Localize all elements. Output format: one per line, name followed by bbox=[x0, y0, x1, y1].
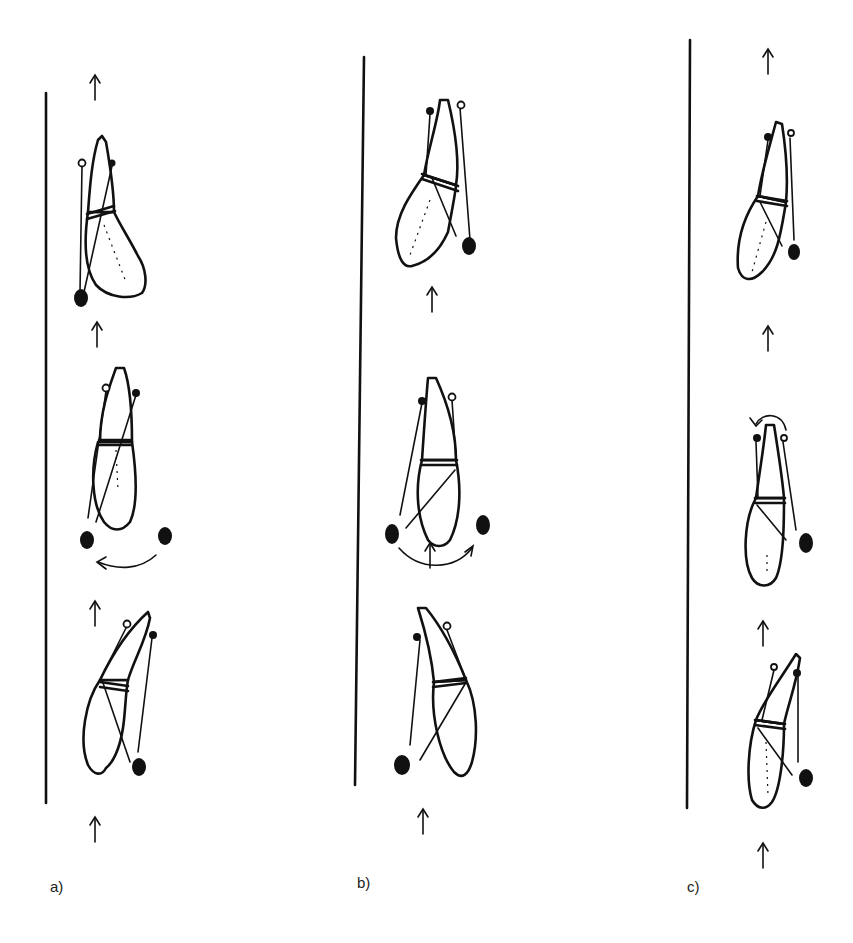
up-arrow-icon bbox=[92, 322, 102, 347]
ball-icon bbox=[462, 237, 476, 255]
horse-b-bottom bbox=[394, 608, 476, 776]
horse-a-top bbox=[74, 136, 145, 307]
horse-b-middle bbox=[385, 378, 490, 565]
up-arrow-icon bbox=[427, 287, 437, 312]
diagram-svg bbox=[0, 0, 853, 943]
up-arrow-icon bbox=[90, 817, 100, 842]
up-arrow-icon bbox=[758, 621, 768, 646]
horse-b-top bbox=[396, 100, 476, 266]
ball-icon bbox=[394, 755, 410, 775]
figure-canvas: a) b) c) bbox=[0, 0, 853, 943]
panel-b bbox=[355, 57, 490, 834]
up-arrow-icon bbox=[90, 75, 100, 100]
panel-c bbox=[687, 40, 813, 868]
up-arrow-icon bbox=[763, 49, 773, 74]
ball-icon bbox=[158, 527, 172, 545]
up-arrow-icon bbox=[90, 601, 100, 626]
track-wall-line-b bbox=[355, 57, 364, 785]
horse-c-top bbox=[738, 122, 800, 279]
panel-label-a: a) bbox=[50, 878, 63, 895]
ball-icon bbox=[385, 524, 399, 544]
ball-icon bbox=[799, 769, 813, 787]
horse-a-middle bbox=[80, 368, 172, 569]
horse-c-middle bbox=[746, 416, 813, 586]
ball-icon bbox=[74, 289, 88, 307]
up-arrow-icon bbox=[763, 326, 773, 351]
ball-icon bbox=[799, 533, 813, 553]
track-wall-line-c bbox=[687, 40, 690, 808]
horse-a-bottom bbox=[84, 612, 157, 776]
ball-icon bbox=[132, 758, 146, 776]
panel-label-c: c) bbox=[687, 878, 700, 895]
panel-a bbox=[46, 75, 172, 842]
up-arrow-icon bbox=[418, 809, 428, 834]
ball-icon bbox=[788, 244, 800, 260]
ball-icon bbox=[476, 515, 490, 535]
horse-c-bottom bbox=[749, 654, 813, 808]
ball-icon bbox=[80, 531, 94, 549]
up-arrow-icon bbox=[758, 843, 768, 868]
panel-label-b: b) bbox=[357, 874, 370, 891]
